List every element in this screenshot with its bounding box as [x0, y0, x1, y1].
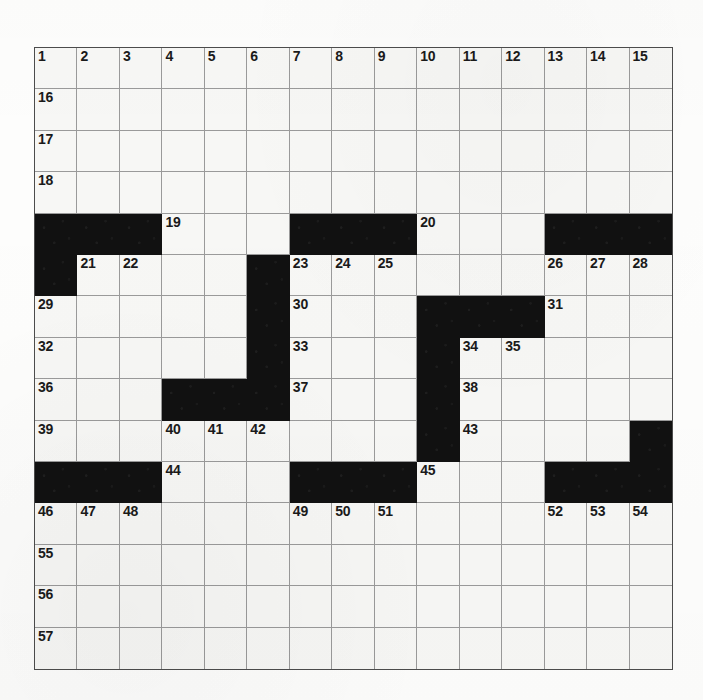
grid-letter-cell[interactable] — [332, 89, 374, 130]
grid-letter-cell[interactable] — [77, 296, 119, 337]
grid-letter-cell[interactable] — [460, 586, 502, 627]
grid-letter-cell[interactable] — [545, 545, 587, 586]
grid-letter-cell[interactable] — [162, 296, 204, 337]
grid-letter-cell[interactable] — [587, 89, 629, 130]
grid-letter-cell[interactable] — [77, 421, 119, 462]
grid-letter-cell[interactable]: 3 — [120, 48, 162, 89]
grid-letter-cell[interactable] — [545, 586, 587, 627]
grid-letter-cell[interactable]: 35 — [502, 338, 544, 379]
grid-letter-cell[interactable] — [205, 462, 247, 503]
grid-letter-cell[interactable] — [162, 255, 204, 296]
grid-letter-cell[interactable] — [120, 628, 162, 669]
grid-letter-cell[interactable] — [502, 214, 544, 255]
grid-letter-cell[interactable] — [417, 545, 459, 586]
grid-letter-cell[interactable] — [545, 421, 587, 462]
grid-letter-cell[interactable]: 22 — [120, 255, 162, 296]
grid-letter-cell[interactable] — [587, 296, 629, 337]
grid-letter-cell[interactable] — [460, 214, 502, 255]
grid-letter-cell[interactable] — [205, 296, 247, 337]
grid-letter-cell[interactable] — [630, 545, 672, 586]
grid-letter-cell[interactable] — [375, 379, 417, 420]
grid-letter-cell[interactable] — [502, 586, 544, 627]
grid-letter-cell[interactable] — [120, 172, 162, 213]
grid-letter-cell[interactable] — [460, 172, 502, 213]
grid-letter-cell[interactable] — [587, 338, 629, 379]
grid-letter-cell[interactable] — [205, 131, 247, 172]
grid-letter-cell[interactable] — [630, 628, 672, 669]
grid-letter-cell[interactable] — [290, 131, 332, 172]
grid-letter-cell[interactable]: 33 — [290, 338, 332, 379]
grid-letter-cell[interactable]: 30 — [290, 296, 332, 337]
grid-letter-cell[interactable] — [545, 338, 587, 379]
grid-letter-cell[interactable]: 7 — [290, 48, 332, 89]
grid-letter-cell[interactable]: 19 — [162, 214, 204, 255]
grid-letter-cell[interactable] — [375, 421, 417, 462]
grid-letter-cell[interactable]: 14 — [587, 48, 629, 89]
grid-letter-cell[interactable] — [247, 628, 289, 669]
grid-letter-cell[interactable] — [630, 296, 672, 337]
grid-letter-cell[interactable] — [162, 338, 204, 379]
grid-letter-cell[interactable] — [502, 503, 544, 544]
grid-letter-cell[interactable] — [375, 89, 417, 130]
grid-letter-cell[interactable]: 36 — [35, 379, 77, 420]
grid-letter-cell[interactable] — [332, 338, 374, 379]
grid-letter-cell[interactable]: 26 — [545, 255, 587, 296]
grid-letter-cell[interactable]: 27 — [587, 255, 629, 296]
grid-letter-cell[interactable] — [417, 172, 459, 213]
grid-letter-cell[interactable] — [332, 628, 374, 669]
grid-letter-cell[interactable] — [162, 545, 204, 586]
grid-letter-cell[interactable] — [417, 503, 459, 544]
grid-letter-cell[interactable]: 47 — [77, 503, 119, 544]
grid-letter-cell[interactable]: 25 — [375, 255, 417, 296]
grid-letter-cell[interactable] — [205, 628, 247, 669]
crossword-grid[interactable]: 1234567891011121314151617181920212223242… — [34, 47, 673, 670]
grid-letter-cell[interactable] — [247, 503, 289, 544]
grid-letter-cell[interactable]: 24 — [332, 255, 374, 296]
grid-letter-cell[interactable] — [77, 172, 119, 213]
grid-letter-cell[interactable] — [502, 379, 544, 420]
grid-letter-cell[interactable]: 5 — [205, 48, 247, 89]
grid-letter-cell[interactable]: 39 — [35, 421, 77, 462]
grid-letter-cell[interactable] — [162, 89, 204, 130]
grid-letter-cell[interactable] — [247, 462, 289, 503]
grid-letter-cell[interactable] — [205, 545, 247, 586]
grid-letter-cell[interactable] — [290, 628, 332, 669]
grid-letter-cell[interactable]: 34 — [460, 338, 502, 379]
grid-letter-cell[interactable]: 15 — [630, 48, 672, 89]
grid-letter-cell[interactable]: 42 — [247, 421, 289, 462]
grid-letter-cell[interactable] — [205, 338, 247, 379]
grid-letter-cell[interactable] — [120, 296, 162, 337]
grid-letter-cell[interactable] — [332, 545, 374, 586]
grid-letter-cell[interactable]: 50 — [332, 503, 374, 544]
grid-letter-cell[interactable] — [502, 545, 544, 586]
grid-letter-cell[interactable] — [77, 545, 119, 586]
grid-letter-cell[interactable] — [460, 503, 502, 544]
grid-letter-cell[interactable] — [502, 131, 544, 172]
grid-letter-cell[interactable]: 44 — [162, 462, 204, 503]
grid-letter-cell[interactable] — [247, 214, 289, 255]
grid-letter-cell[interactable] — [460, 545, 502, 586]
grid-letter-cell[interactable]: 12 — [502, 48, 544, 89]
grid-letter-cell[interactable] — [205, 214, 247, 255]
grid-letter-cell[interactable]: 37 — [290, 379, 332, 420]
grid-letter-cell[interactable] — [77, 131, 119, 172]
grid-letter-cell[interactable] — [162, 586, 204, 627]
grid-letter-cell[interactable] — [502, 89, 544, 130]
grid-letter-cell[interactable] — [375, 586, 417, 627]
grid-letter-cell[interactable]: 55 — [35, 545, 77, 586]
grid-letter-cell[interactable] — [332, 421, 374, 462]
grid-letter-cell[interactable]: 9 — [375, 48, 417, 89]
grid-letter-cell[interactable] — [417, 255, 459, 296]
grid-letter-cell[interactable] — [247, 545, 289, 586]
grid-letter-cell[interactable]: 40 — [162, 421, 204, 462]
grid-letter-cell[interactable]: 43 — [460, 421, 502, 462]
grid-letter-cell[interactable]: 52 — [545, 503, 587, 544]
grid-letter-cell[interactable]: 28 — [630, 255, 672, 296]
grid-letter-cell[interactable]: 32 — [35, 338, 77, 379]
grid-letter-cell[interactable] — [502, 255, 544, 296]
grid-letter-cell[interactable] — [205, 255, 247, 296]
grid-letter-cell[interactable] — [332, 172, 374, 213]
grid-letter-cell[interactable] — [502, 462, 544, 503]
grid-letter-cell[interactable] — [587, 421, 629, 462]
grid-letter-cell[interactable] — [205, 586, 247, 627]
